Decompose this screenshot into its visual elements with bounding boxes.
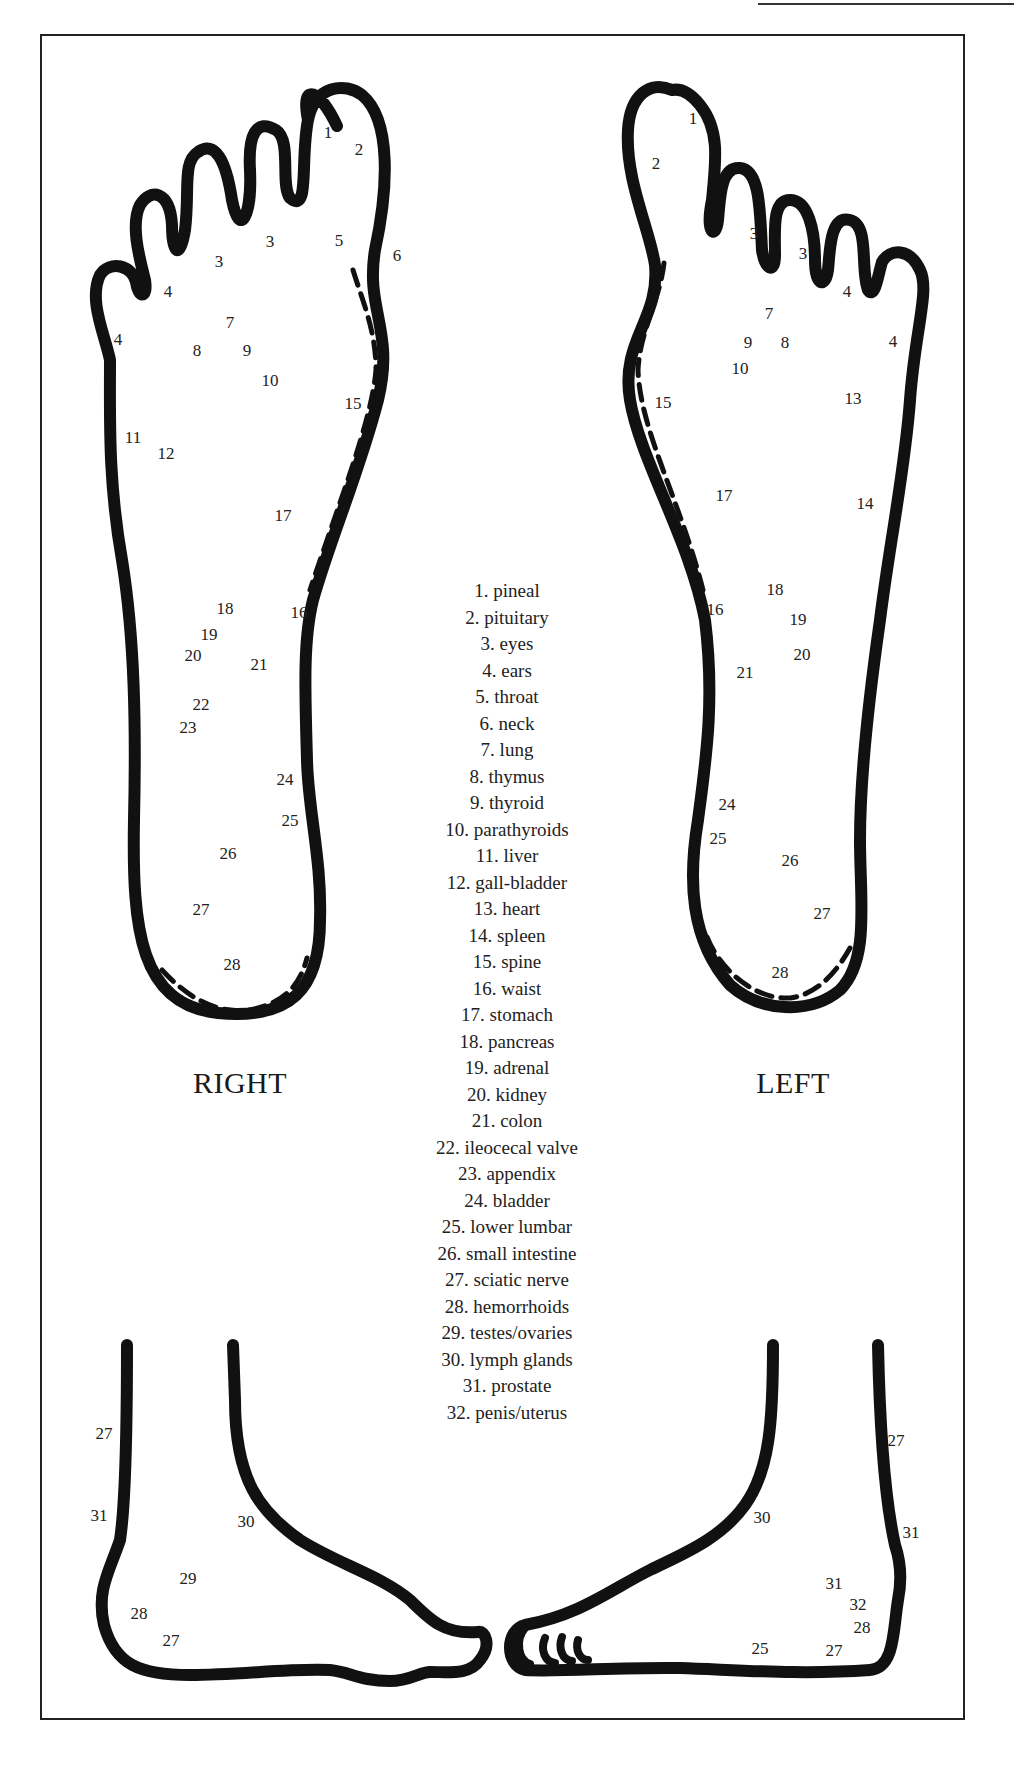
legend-item: 6. neck xyxy=(436,711,578,738)
legend-item: 30. lymph glands xyxy=(436,1347,578,1374)
legend-item: 13. heart xyxy=(436,896,578,923)
legend-item: 15. spine xyxy=(436,949,578,976)
legend-item: 1. pineal xyxy=(436,578,578,605)
reflex-point-legend: 1. pineal2. pituitary3. eyes4. ears5. th… xyxy=(436,578,578,1426)
reflex-point-number: 20 xyxy=(794,646,811,663)
reflex-point-number: 18 xyxy=(767,581,784,598)
reflex-point-number: 22 xyxy=(193,696,210,713)
reflex-point-number: 26 xyxy=(220,845,237,862)
legend-item: 18. pancreas xyxy=(436,1029,578,1056)
right-sole-outline xyxy=(96,88,385,1014)
legend-item: 5. throat xyxy=(436,684,578,711)
reflex-point-number: 10 xyxy=(732,360,749,377)
legend-item: 4. ears xyxy=(436,658,578,685)
reflex-point-number: 4 xyxy=(889,333,898,350)
reflex-point-number: 28 xyxy=(224,956,241,973)
left-sole-outline xyxy=(628,87,924,1007)
reflex-point-number: 24 xyxy=(719,796,736,813)
reflex-point-number: 21 xyxy=(251,656,268,673)
reflex-point-number: 30 xyxy=(238,1513,255,1530)
reflex-point-number: 13 xyxy=(845,390,862,407)
reflex-point-number: 25 xyxy=(752,1640,769,1657)
legend-item: 22. ileocecal valve xyxy=(436,1135,578,1162)
reflex-point-number: 28 xyxy=(854,1619,871,1636)
legend-item: 8. thymus xyxy=(436,764,578,791)
reflex-point-number: 27 xyxy=(814,905,831,922)
reflex-point-number: 21 xyxy=(737,664,754,681)
reflex-point-number: 19 xyxy=(790,611,807,628)
reflex-point-number: 3 xyxy=(215,253,224,270)
legend-item: 17. stomach xyxy=(436,1002,578,1029)
legend-item: 27. sciatic nerve xyxy=(436,1267,578,1294)
reflex-point-number: 31 xyxy=(826,1575,843,1592)
legend-item: 25. lower lumbar xyxy=(436,1214,578,1241)
reflex-point-number: 4 xyxy=(843,283,852,300)
reflex-point-number: 16 xyxy=(291,604,308,621)
legend-item: 20. kidney xyxy=(436,1082,578,1109)
left-side-toes xyxy=(519,1628,588,1664)
reflex-point-number: 25 xyxy=(282,812,299,829)
legend-item: 29. testes/ovaries xyxy=(436,1320,578,1347)
reflex-point-number: 28 xyxy=(131,1605,148,1622)
reflex-point-number: 29 xyxy=(180,1570,197,1587)
legend-item: 19. adrenal xyxy=(436,1055,578,1082)
legend-item: 21. colon xyxy=(436,1108,578,1135)
reflex-point-number: 4 xyxy=(114,331,123,348)
legend-item: 16. waist xyxy=(436,976,578,1003)
reflex-point-number: 7 xyxy=(765,305,774,322)
reflex-point-number: 26 xyxy=(782,852,799,869)
reflex-point-number: 3 xyxy=(266,233,275,250)
reflex-point-number: 5 xyxy=(335,232,344,249)
reflex-point-number: 17 xyxy=(716,487,733,504)
reflex-point-number: 31 xyxy=(91,1507,108,1524)
legend-item: 3. eyes xyxy=(436,631,578,658)
legend-item: 12. gall-bladder xyxy=(436,870,578,897)
reflex-point-number: 1 xyxy=(689,110,698,127)
reflex-point-number: 15 xyxy=(655,394,672,411)
reflex-point-number: 2 xyxy=(652,155,661,172)
legend-item: 9. thyroid xyxy=(436,790,578,817)
reflex-point-number: 3 xyxy=(799,245,808,262)
reflex-point-number: 27 xyxy=(193,901,210,918)
right-foot-label: RIGHT xyxy=(193,1066,287,1100)
legend-item: 14. spleen xyxy=(436,923,578,950)
reflex-point-number: 31 xyxy=(903,1524,920,1541)
legend-item: 23. appendix xyxy=(436,1161,578,1188)
legend-item: 28. hemorrhoids xyxy=(436,1294,578,1321)
reflex-point-number: 7 xyxy=(226,314,235,331)
legend-item: 7. lung xyxy=(436,737,578,764)
legend-item: 10. parathyroids xyxy=(436,817,578,844)
right-sole-dashed-spine xyxy=(310,270,376,590)
legend-item: 32. penis/uterus xyxy=(436,1400,578,1427)
reflex-point-number: 32 xyxy=(850,1596,867,1613)
reflex-point-number: 10 xyxy=(262,372,279,389)
reflex-point-number: 8 xyxy=(781,334,790,351)
reflex-point-number: 14 xyxy=(857,495,874,512)
reflex-point-number: 12 xyxy=(158,445,175,462)
reflex-point-number: 30 xyxy=(754,1509,771,1526)
reflex-point-number: 11 xyxy=(125,429,141,446)
reflex-point-number: 27 xyxy=(96,1425,113,1442)
reflex-point-number: 9 xyxy=(243,342,252,359)
legend-item: 24. bladder xyxy=(436,1188,578,1215)
left-foot-label: LEFT xyxy=(756,1066,830,1100)
legend-item: 26. small intestine xyxy=(436,1241,578,1268)
reflex-point-number: 4 xyxy=(164,283,173,300)
reflex-point-number: 27 xyxy=(163,1632,180,1649)
legend-item: 31. prostate xyxy=(436,1373,578,1400)
reflex-point-number: 9 xyxy=(744,334,753,351)
reflex-point-number: 24 xyxy=(277,771,294,788)
reflex-point-number: 23 xyxy=(180,719,197,736)
reflex-point-number: 27 xyxy=(826,1642,843,1659)
reflex-point-number: 28 xyxy=(772,964,789,981)
reflex-point-number: 17 xyxy=(275,507,292,524)
reflex-point-number: 1 xyxy=(324,124,333,141)
reflex-point-number: 16 xyxy=(707,601,724,618)
reflex-point-number: 6 xyxy=(393,247,402,264)
legend-item: 2. pituitary xyxy=(436,605,578,632)
reflex-point-number: 3 xyxy=(750,225,759,242)
reflex-point-number: 25 xyxy=(710,830,727,847)
right-side-outer-line xyxy=(102,1345,487,1681)
reflex-point-number: 8 xyxy=(193,342,202,359)
reflex-point-number: 15 xyxy=(345,395,362,412)
